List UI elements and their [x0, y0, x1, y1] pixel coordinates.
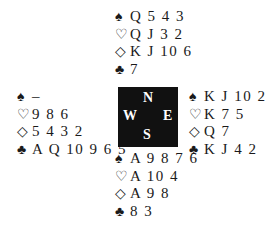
spade-icon: ♠ [17, 88, 32, 106]
north-clubs: 7 [130, 61, 139, 77]
heart-icon: ♡ [115, 168, 130, 186]
spade-icon: ♠ [189, 88, 204, 106]
south-spades: A 9 8 7 6 [130, 150, 199, 166]
east-hearts-row: ♡K 7 5 [189, 106, 265, 124]
east-spades-row: ♠K J 10 2 [189, 88, 265, 106]
south-clubs: 8 3 [130, 203, 153, 219]
south-diamonds-row: ◇A 9 8 [115, 185, 199, 203]
north-hand: ♠Q 5 4 3 ♡Q J 3 2 ◇K J 10 6 ♣7 [115, 8, 192, 78]
east-diamonds-row: ◇Q 7 [189, 123, 265, 141]
diamond-icon: ◇ [115, 185, 130, 203]
north-spades: Q 5 4 3 [130, 8, 185, 24]
compass-north: N [143, 90, 153, 106]
east-spades: K J 10 2 [204, 88, 265, 104]
heart-icon: ♡ [189, 106, 204, 124]
compass-east: E [163, 108, 172, 124]
east-hearts: K 7 5 [204, 106, 245, 122]
south-clubs-row: ♣8 3 [115, 203, 199, 221]
west-diamonds: 5 4 3 2 [32, 123, 84, 139]
north-clubs-row: ♣7 [115, 61, 192, 79]
compass-west: W [123, 108, 137, 124]
south-spades-row: ♠A 9 8 7 6 [115, 150, 199, 168]
west-clubs-row: ♣A Q 10 9 6 5 [17, 141, 127, 159]
east-diamonds: Q 7 [204, 123, 231, 139]
diamond-icon: ◇ [115, 43, 130, 61]
south-hearts-row: ♡A 10 4 [115, 168, 199, 186]
spade-icon: ♠ [115, 8, 130, 26]
west-hearts: 9 8 6 [32, 106, 70, 122]
club-icon: ♣ [115, 203, 130, 221]
north-hearts: Q J 3 2 [130, 26, 183, 42]
heart-icon: ♡ [17, 106, 32, 124]
club-icon: ♣ [115, 61, 130, 79]
diamond-icon: ◇ [189, 123, 204, 141]
north-diamonds: K J 10 6 [130, 43, 192, 59]
north-diamonds-row: ◇K J 10 6 [115, 43, 192, 61]
west-hearts-row: ♡9 8 6 [17, 106, 127, 124]
west-clubs: A Q 10 9 6 5 [32, 141, 127, 157]
club-icon: ♣ [17, 141, 32, 159]
south-diamonds: A 9 8 [130, 185, 170, 201]
west-spades: – [32, 88, 41, 104]
south-hearts: A 10 4 [130, 168, 179, 184]
compass-south: S [143, 127, 151, 143]
west-diamonds-row: ◇5 4 3 2 [17, 123, 127, 141]
north-spades-row: ♠Q 5 4 3 [115, 8, 192, 26]
south-hand: ♠A 9 8 7 6 ♡A 10 4 ◇A 9 8 ♣8 3 [115, 150, 199, 220]
north-hearts-row: ♡Q J 3 2 [115, 26, 192, 44]
west-spades-row: ♠– [17, 88, 127, 106]
heart-icon: ♡ [115, 26, 130, 44]
spade-icon: ♠ [115, 150, 130, 168]
diamond-icon: ◇ [17, 123, 32, 141]
west-hand: ♠– ♡9 8 6 ◇5 4 3 2 ♣A Q 10 9 6 5 [17, 88, 127, 158]
east-clubs-row: ♣K J 4 2 [189, 141, 265, 159]
compass-box: N W E S [118, 87, 178, 147]
east-hand: ♠K J 10 2 ♡K 7 5 ◇Q 7 ♣K J 4 2 [189, 88, 265, 158]
east-clubs: K J 4 2 [204, 141, 257, 157]
